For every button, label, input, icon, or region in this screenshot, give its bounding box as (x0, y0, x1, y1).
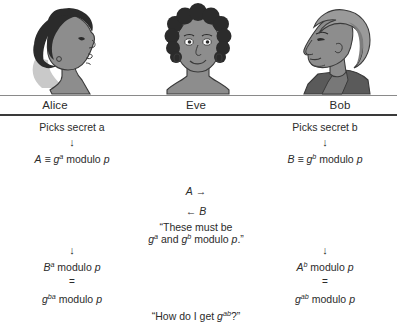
alice-shared-secret-form-2: gba modulo p (0, 293, 152, 305)
portrait-band (0, 0, 397, 95)
alice-equals-sign: = (0, 277, 152, 288)
eve-intercept-b: ← B (116, 205, 276, 217)
alice-public-value: A ≡ ga modulo p (0, 153, 152, 165)
bob-picks-secret: Picks secret b (245, 121, 397, 133)
bob-step-group-1: Picks secret b ↓ B ≡ gb modulo p (245, 121, 397, 165)
divider-thick (0, 114, 397, 116)
participant-name-eve: Eve (136, 96, 256, 114)
eve-intercept-group: A → ← B “These must be ga and gb modulo … (116, 185, 276, 245)
participant-name-row: Alice Eve Bob (0, 96, 397, 114)
bob-shared-secret-form-1: Ab modulo p (245, 261, 397, 273)
alice-step-group-2: ↓ Ba modulo p = gba modulo p (0, 245, 152, 305)
participant-name-bob: Bob (280, 96, 397, 114)
bob-portrait-icon (278, 0, 388, 95)
alice-step-group-1: Picks secret a ↓ A ≡ ga modulo p (0, 121, 152, 165)
bob-equals-sign: = (245, 277, 397, 288)
bob-step-group-2: ↓ Ab modulo p = gab modulo p (245, 245, 397, 305)
eve-quote-line-2: ga and gb modulo p.” (116, 233, 276, 245)
eve-question-text: “How do I get gab?” (116, 310, 276, 322)
bob-shared-secret-form-2: gab modulo p (245, 293, 397, 305)
bob-arrow-down-2: ↓ (245, 245, 397, 257)
alice-arrow-down-2: ↓ (0, 245, 152, 257)
alice-portrait-icon (12, 0, 122, 95)
eve-portrait-icon (143, 0, 253, 95)
eve-intercept-a: A → (116, 185, 276, 197)
alice-arrow-down-1: ↓ (0, 137, 152, 149)
eve-question-group: “How do I get gab?” (116, 310, 276, 322)
participant-name-alice: Alice (0, 96, 115, 114)
alice-shared-secret-form-1: Ba modulo p (0, 261, 152, 273)
alice-picks-secret: Picks secret a (0, 121, 152, 133)
bob-public-value: B ≡ gb modulo p (245, 153, 397, 165)
bob-arrow-down-1: ↓ (245, 137, 397, 149)
eve-quote-line-1: “These must be (116, 221, 276, 233)
